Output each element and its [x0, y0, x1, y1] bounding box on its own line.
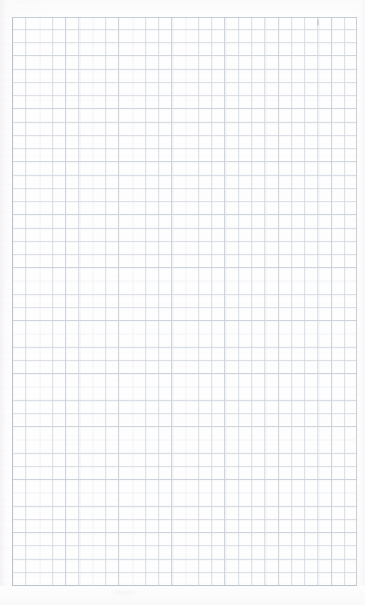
grid-block-border: [12, 17, 357, 586]
grid-ruling-scan-echo: [12, 17, 357, 586]
scan-edge-shadow-right: [355, 0, 365, 605]
stray-scan-smudge: [112, 591, 136, 594]
bottom-margin: [0, 586, 365, 605]
scan-edge-shadow-left: [0, 0, 13, 605]
paper-surface: [0, 0, 365, 605]
stray-pencil-mark: [317, 19, 319, 26]
page-title: Blank grid paper sheet: [0, 0, 1, 1]
grid-ruling: [12, 17, 357, 586]
scan-banding-overlay: [0, 0, 365, 605]
scanned-page: Blank grid paper sheet: [0, 0, 365, 605]
scan-edge-shadow-top: [0, 0, 365, 16]
